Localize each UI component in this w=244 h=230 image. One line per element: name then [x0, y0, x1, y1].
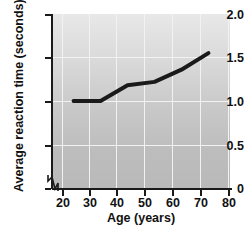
y-tick-label: 1.5 — [200, 52, 244, 65]
y-axis-line — [51, 14, 53, 189]
x-tick-label: 50 — [130, 197, 160, 210]
y-tick-mark — [45, 14, 51, 16]
y-tick-mark — [45, 101, 51, 103]
y-axis-title: Average reaction time (seconds) — [12, 6, 26, 192]
x-axis-title: Age (years) — [52, 211, 230, 225]
y-tick-label: 2.0 — [200, 9, 244, 22]
x-tick-label: 60 — [158, 197, 188, 210]
y-tick-mark — [45, 57, 51, 59]
x-tick-label: 80 — [214, 197, 244, 210]
y-tick-label: 0 — [200, 183, 244, 196]
x-tick-label: 20 — [48, 197, 78, 210]
y-tick-label: 0.5 — [200, 140, 244, 153]
x-tick-label: 30 — [75, 197, 105, 210]
y-tick-label: 1.0 — [200, 96, 244, 109]
x-tick-label: 70 — [186, 197, 216, 210]
axis-break-icon — [45, 173, 61, 191]
y-tick-mark — [45, 145, 51, 147]
chart-figure: 2.0 1.5 1.0 0.5 0 20 30 40 50 60 70 80 A… — [0, 0, 244, 230]
x-tick-label: 40 — [102, 197, 132, 210]
